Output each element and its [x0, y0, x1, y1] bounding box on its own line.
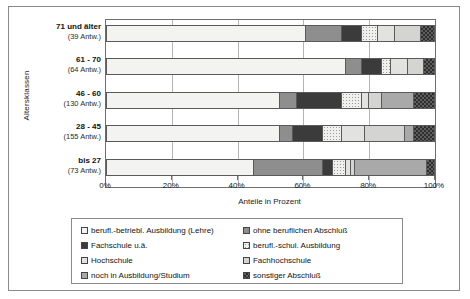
bar-segment[interactable]	[107, 59, 346, 74]
bar-segment[interactable]	[107, 160, 254, 175]
legend-row: HochschuleFachhochschule	[72, 253, 402, 268]
bar-segment[interactable]	[107, 93, 280, 108]
x-axis-tick-label: 100%	[414, 181, 454, 190]
legend-row: Fachschule u.ä.berufl.-schul. Ausbildung	[72, 238, 402, 253]
bar-segment[interactable]	[391, 59, 407, 74]
plot-area: 71 und älter(39 Antw.)61 - 70(64 Antw.)4…	[105, 19, 436, 188]
category-name: 61 - 70	[16, 55, 101, 65]
bar-segment[interactable]	[414, 93, 434, 108]
category-label: 61 - 70(64 Antw.)	[16, 55, 106, 75]
x-axis-tick	[105, 176, 106, 180]
category-count: (155 Antw.)	[16, 132, 101, 142]
legend-item[interactable]: berufl.-schul. Ausbildung	[243, 241, 402, 251]
bar-segment[interactable]	[369, 93, 382, 108]
category-name: 46 - 60	[16, 89, 101, 99]
legend-swatch-icon	[81, 242, 88, 249]
bar-segment[interactable]	[421, 26, 434, 41]
bar-segment[interactable]	[346, 59, 362, 74]
legend-swatch-icon	[81, 227, 88, 234]
legend-label: noch in Ausbildung/Studium	[91, 271, 190, 281]
stacked-bar[interactable]	[106, 25, 435, 42]
stacked-bar[interactable]	[106, 58, 435, 75]
category-count: (130 Antw.)	[16, 99, 101, 109]
category-count: (39 Antw.)	[16, 32, 101, 42]
x-axis-tick	[171, 176, 172, 180]
chart-frame: Altersklassen 71 und älter(39 Antw.)61 -…	[8, 6, 460, 291]
bar-segment[interactable]	[424, 59, 434, 74]
x-axis-tick-label: 0%	[85, 181, 125, 190]
legend-label: sonstiger Abschluß	[253, 271, 321, 281]
legend-item[interactable]: ohne beruflichen Abschluß	[243, 226, 402, 236]
bar-segment[interactable]	[107, 26, 306, 41]
legend-swatch-icon	[243, 272, 250, 279]
category-name: 28 - 45	[16, 122, 101, 132]
category-label: bis 27(73 Antw.)	[16, 156, 106, 176]
bar-segment[interactable]	[323, 126, 343, 141]
x-axis-tick-label: 60%	[282, 181, 322, 190]
bar-segment[interactable]	[362, 26, 378, 41]
x-axis-tick	[302, 176, 303, 180]
legend-swatch-icon	[243, 257, 250, 264]
category-name: bis 27	[16, 156, 101, 166]
legend-label: ohne beruflichen Abschluß	[253, 226, 347, 236]
category-row: 61 - 70(64 Antw.)	[106, 53, 435, 86]
legend-item[interactable]: Fachhochschule	[243, 256, 402, 266]
bar-segment[interactable]	[427, 160, 434, 175]
bar-segment[interactable]	[355, 160, 427, 175]
x-axis-tick-label: 20%	[151, 181, 191, 190]
category-count: (64 Antw.)	[16, 65, 101, 75]
chart-region: Altersklassen 71 und älter(39 Antw.)61 -…	[9, 7, 459, 212]
bar-segment[interactable]	[382, 93, 415, 108]
category-label: 71 und älter(39 Antw.)	[16, 22, 106, 42]
bar-segment[interactable]	[365, 126, 404, 141]
legend-item[interactable]: noch in Ausbildung/Studium	[72, 271, 243, 281]
category-row: 28 - 45(155 Antw.)	[106, 120, 435, 153]
bar-segment[interactable]	[280, 126, 293, 141]
bar-segment[interactable]	[395, 26, 421, 41]
bar-segment[interactable]	[297, 93, 343, 108]
category-count: (73 Antw.)	[16, 166, 101, 176]
category-row: 71 und älter(39 Antw.)	[106, 20, 435, 53]
legend-label: berufl.-schul. Ausbildung	[253, 241, 340, 251]
bar-segment[interactable]	[293, 126, 322, 141]
bar-segment[interactable]	[362, 59, 382, 74]
legend-row: noch in Ausbildung/Studiumsonstiger Absc…	[72, 268, 402, 283]
x-axis-tick-label: 80%	[348, 181, 388, 190]
bar-segment[interactable]	[254, 160, 323, 175]
bar-segment[interactable]	[107, 126, 280, 141]
category-label: 28 - 45(155 Antw.)	[16, 122, 106, 142]
category-row: 46 - 60(130 Antw.)	[106, 87, 435, 120]
x-axis-tick	[237, 176, 238, 180]
bar-segment[interactable]	[414, 126, 434, 141]
bar-segment[interactable]	[382, 59, 392, 74]
legend-item[interactable]: sonstiger Abschluß	[243, 271, 402, 281]
legend-swatch-icon	[81, 257, 88, 264]
bar-segment[interactable]	[333, 160, 346, 175]
category-name: 71 und älter	[16, 22, 101, 32]
x-axis-tick-label: 40%	[217, 181, 257, 190]
legend-item[interactable]: berufl.-betriebl. Ausbildung (Lehre)	[72, 226, 243, 236]
bar-segment[interactable]	[378, 26, 394, 41]
legend-swatch-icon	[243, 242, 250, 249]
bar-segment[interactable]	[405, 126, 415, 141]
legend-item[interactable]: Hochschule	[72, 256, 243, 266]
bar-segment[interactable]	[342, 93, 362, 108]
bar-segment[interactable]	[342, 126, 365, 141]
bar-segment[interactable]	[408, 59, 424, 74]
legend-row: berufl.-betriebl. Ausbildung (Lehre)ohne…	[72, 223, 402, 238]
legend-item[interactable]: Fachschule u.ä.	[72, 241, 243, 251]
bar-segment[interactable]	[306, 26, 342, 41]
legend-label: Fachhochschule	[253, 256, 311, 266]
legend-swatch-icon	[81, 272, 88, 279]
bar-segment[interactable]	[280, 93, 296, 108]
legend: berufl.-betriebl. Ausbildung (Lehre)ohne…	[71, 218, 403, 284]
bar-segment[interactable]	[342, 26, 362, 41]
legend-label: Fachschule u.ä.	[91, 241, 147, 251]
stacked-bar[interactable]	[106, 125, 435, 142]
bar-segment[interactable]	[323, 160, 333, 175]
stacked-bar[interactable]	[106, 92, 435, 109]
legend-label: Hochschule	[91, 256, 133, 266]
x-axis-tick	[434, 176, 435, 180]
category-label: 46 - 60(130 Antw.)	[16, 89, 106, 109]
stacked-bar[interactable]	[106, 159, 435, 176]
